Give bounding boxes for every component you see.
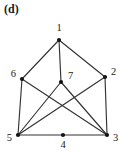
graph-vertex-label-7: 7 xyxy=(68,70,73,81)
graph-vertex-label-5: 5 xyxy=(7,132,12,143)
edge-layer xyxy=(18,40,107,135)
graph-vertex-label-4: 4 xyxy=(60,139,66,150)
graph-diagram: 1234567 xyxy=(0,0,122,153)
graph-edge-7-3 xyxy=(61,82,107,135)
graph-vertex-3 xyxy=(105,133,109,137)
graph-vertex-7 xyxy=(59,80,63,84)
figure-panel: (d) 1234567 xyxy=(0,0,122,153)
graph-edge-1-6 xyxy=(22,40,59,79)
graph-edge-2-3 xyxy=(105,77,107,135)
graph-vertex-2 xyxy=(103,75,107,79)
graph-vertex-6 xyxy=(20,77,24,81)
graph-vertex-label-6: 6 xyxy=(11,68,16,79)
graph-edge-1-7 xyxy=(59,40,61,82)
graph-vertex-5 xyxy=(16,133,20,137)
graph-vertex-label-2: 2 xyxy=(111,66,116,77)
graph-edge-6-5 xyxy=(18,79,22,135)
graph-vertex-label-1: 1 xyxy=(56,22,61,33)
graph-edge-2-5 xyxy=(18,77,105,135)
graph-vertex-label-3: 3 xyxy=(113,132,118,143)
graph-vertex-1 xyxy=(57,38,61,42)
vertex-layer xyxy=(16,38,109,137)
graph-vertex-4 xyxy=(61,133,65,137)
graph-edge-6-3 xyxy=(22,79,107,135)
graph-edge-1-2 xyxy=(59,40,105,77)
